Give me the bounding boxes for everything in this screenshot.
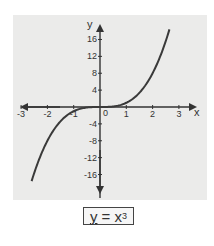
equation-exponent: 3 [122,211,127,221]
y-tick-label: -16 [84,170,97,180]
x-axis-label: x [194,106,200,118]
x-tick-label: 3 [176,109,181,119]
x-tick-label: -3 [17,109,25,119]
y-tick-label: 8 [92,68,97,78]
origin-label: 0 [103,108,108,118]
x-tick-label: 2 [150,109,155,119]
y-tick-label: -8 [89,136,97,146]
equation-lhs: y [90,208,98,225]
x-tick-label: 1 [124,109,129,119]
y-tick-label: 16 [87,34,97,44]
y-tick-label: 12 [87,51,97,61]
equation-equals: = [97,208,114,225]
x-tick-label: -2 [43,109,51,119]
y-tick-label: -4 [89,119,97,129]
y-tick-label: -12 [84,153,97,163]
y-axis-label: y [87,18,93,30]
y-tick-label: 4 [92,85,97,95]
equation-box: y = x3 [83,207,134,225]
equation-base: x [115,208,123,225]
